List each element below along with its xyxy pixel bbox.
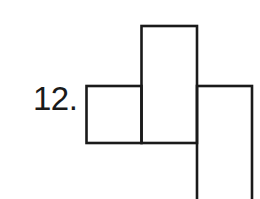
rectangle-net-diagram [0,0,260,199]
center-tall-rectangle [142,26,198,143]
right-rectangle [197,86,252,199]
problem-figure-canvas: 12. [0,0,260,199]
left-square [87,86,142,143]
